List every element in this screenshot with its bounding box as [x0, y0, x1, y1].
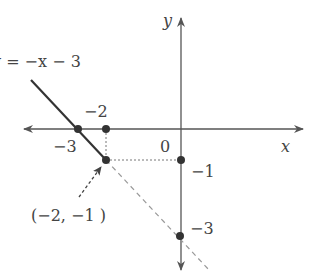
equation-label: y = −x − 3 — [0, 52, 81, 71]
tick-label-y-neg3: −3 — [190, 219, 214, 238]
tick-label-x-neg3: −3 — [53, 137, 77, 156]
point-0-neg3 — [176, 232, 184, 240]
tick-label-x-neg2: −2 — [84, 102, 108, 121]
coordinate-plane: y = −x − 3 y x 0 −2 −3 −1 −3 (−2, −1 ) — [0, 0, 320, 271]
origin-label: 0 — [160, 137, 170, 156]
y-axis-label: y — [162, 11, 173, 30]
annotation-arrow — [79, 167, 101, 197]
point-0-neg1 — [177, 156, 185, 164]
point-neg2-neg1 — [102, 156, 110, 164]
point-neg2-0 — [102, 125, 110, 133]
x-axis-label: x — [281, 137, 290, 156]
point-annotation: (−2, −1 ) — [31, 206, 106, 225]
point-neg3-0 — [74, 125, 82, 133]
tick-label-y-neg1: −1 — [191, 162, 215, 181]
